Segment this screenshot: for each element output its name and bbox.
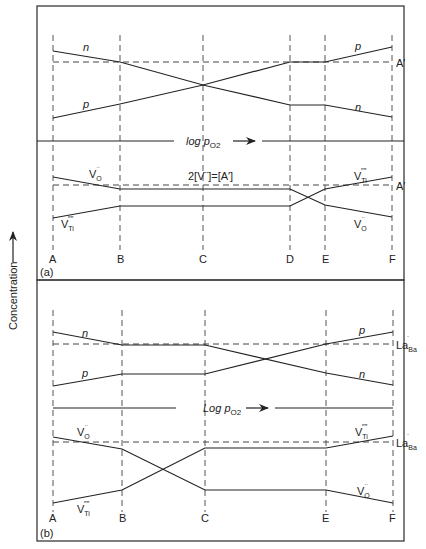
panel-a-column-label-D: D bbox=[286, 253, 294, 265]
panel-a-label-VTi-right-sup: ′′′′ bbox=[361, 167, 367, 174]
panel-b-column-label-F: F bbox=[389, 512, 396, 524]
panel-b-label-VTi-left-sup: ′′′′ bbox=[84, 500, 90, 507]
panel-a-tag: (a) bbox=[40, 266, 53, 278]
panel-b-lower-reference-sup: ˙ bbox=[407, 433, 410, 442]
panel-a-label-p-left: p bbox=[82, 98, 89, 110]
panel-b-label-p-right: p bbox=[358, 324, 365, 336]
panel-a: n p p n A′ log pO2 VO ¨ VTi ′′′′ VTi ′′′… bbox=[37, 35, 405, 278]
y-axis-label: Concentration bbox=[7, 262, 19, 331]
panel-a-curve-VTi bbox=[53, 177, 392, 218]
panel-a-column-label-B: B bbox=[117, 253, 124, 265]
panel-a-curve-n bbox=[53, 47, 392, 85]
panel-b-column-label-C: C bbox=[201, 512, 209, 524]
panel-a-column-label-A: A bbox=[49, 253, 57, 265]
y-axis-label-group: Concentration bbox=[7, 232, 19, 330]
panel-a-label-p-right: p bbox=[354, 40, 361, 52]
panel-a-upper-reference-label: A′ bbox=[396, 57, 405, 69]
panel-a-label-VO-left: VO bbox=[89, 168, 102, 182]
panel-a-column-label-C: C bbox=[199, 253, 207, 265]
panel-a-condition-label: 2[V¨]=[A′] bbox=[188, 170, 233, 182]
panel-a-pO2-label: log pO2 bbox=[186, 135, 221, 150]
panel-b-label-VO-right-sup: ¨ bbox=[365, 482, 368, 491]
panel-b-label-VO-left-sup: ¨ bbox=[85, 423, 88, 432]
defect-diagram: Concentration n p p n A′ log pO2 bbox=[0, 0, 426, 549]
panel-b-label-VTi-right-sup: ′′′′ bbox=[362, 423, 368, 430]
panel-b-tag: (b) bbox=[40, 527, 53, 539]
panel-b-label-p-left: p bbox=[81, 367, 88, 379]
panel-b-label-n-left: n bbox=[82, 327, 88, 339]
panel-b: n p p n LaBa ˙ Log pO2 VO ¨ VTi ′′′′ VTi… bbox=[40, 310, 417, 539]
panel-b-upper-reference-sup: ˙ bbox=[407, 335, 410, 344]
panel-a-column-label-F: F bbox=[389, 253, 396, 265]
panel-a-label-n-right: n bbox=[355, 101, 361, 113]
panel-b-label-VO-right: VO bbox=[357, 485, 370, 499]
panel-b-curve-p bbox=[53, 332, 393, 386]
panel-a-label-VO-left-sup: ¨ bbox=[97, 165, 100, 174]
panel-b-column-label-B: B bbox=[119, 512, 126, 524]
panel-a-label-n-left: n bbox=[83, 41, 89, 53]
panel-b-column-label-E: E bbox=[322, 512, 329, 524]
panel-a-curve-p bbox=[53, 85, 392, 118]
panel-a-label-VO-right-sup: ¨ bbox=[362, 215, 365, 224]
panel-a-column-label-E: E bbox=[322, 253, 329, 265]
panel-a-curve-VO bbox=[53, 177, 392, 217]
panel-b-label-VO-left: VO bbox=[77, 426, 90, 440]
panel-b-column-label-A: A bbox=[49, 512, 57, 524]
panel-a-lower-reference-label: A′ bbox=[396, 180, 405, 192]
panel-a-label-VO-right: VO bbox=[354, 218, 367, 232]
panel-b-label-n-right: n bbox=[359, 368, 365, 380]
panel-b-pO2-label: Log pO2 bbox=[203, 402, 242, 417]
panel-a-label-VTi-left-sup: ′′′′ bbox=[68, 215, 74, 222]
